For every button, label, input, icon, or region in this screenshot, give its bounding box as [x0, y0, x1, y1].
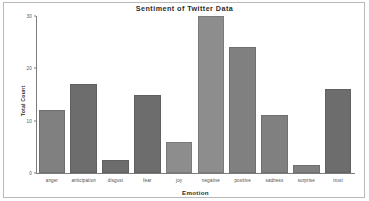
y-axis-label: Total Count — [20, 85, 26, 116]
bar-trust — [325, 89, 352, 173]
x-tick-label-anticipation: anticipation — [71, 178, 96, 183]
bar-slot: trust — [322, 16, 354, 173]
bar-joy — [166, 142, 193, 173]
x-tick-label-disgust: disgust — [108, 178, 123, 183]
chart-screenshot: Sentiment of Twitter Data Total Count an… — [0, 0, 369, 201]
x-tick-label-sadness: sadness — [266, 178, 284, 183]
x-tick-label-negative: negative — [202, 178, 220, 183]
bar-anticipation — [70, 84, 97, 173]
y-tick-mark — [34, 16, 36, 17]
y-tick-mark — [34, 173, 36, 174]
x-axis-line — [36, 173, 355, 174]
bar-fear — [134, 95, 161, 174]
bar-slot: anger — [36, 16, 68, 173]
x-axis-label: Emotion — [36, 189, 355, 196]
bar-negative — [198, 16, 225, 173]
bar-anger — [39, 110, 66, 173]
bar-series: angeranticipationdisgustfearjoynegativep… — [36, 16, 354, 173]
y-tick-mark — [34, 120, 36, 121]
bar-slot: anticipation — [68, 16, 100, 173]
bar-slot: fear — [131, 16, 163, 173]
x-tick-label-positive: positive — [234, 178, 250, 183]
bar-slot: joy — [163, 16, 195, 173]
bar-slot: sadness — [259, 16, 291, 173]
bar-slot: negative — [195, 16, 227, 173]
x-tick-label-trust: trust — [333, 178, 343, 183]
x-tick-label-surprise: surprise — [298, 178, 315, 183]
y-tick-mark — [34, 68, 36, 69]
bar-sadness — [261, 115, 288, 173]
x-tick-label-anger: anger — [46, 178, 58, 183]
chart-title: Sentiment of Twitter Data — [0, 4, 369, 13]
bar-surprise — [293, 165, 320, 173]
x-tick-label-joy: joy — [176, 178, 182, 183]
bar-disgust — [102, 160, 129, 173]
x-tick-label-fear: fear — [143, 178, 151, 183]
bar-slot: disgust — [100, 16, 132, 173]
bar-positive — [229, 47, 256, 173]
plot-area: angeranticipationdisgustfearjoynegativep… — [36, 16, 354, 173]
bar-slot: positive — [227, 16, 259, 173]
bar-slot: surprise — [290, 16, 322, 173]
